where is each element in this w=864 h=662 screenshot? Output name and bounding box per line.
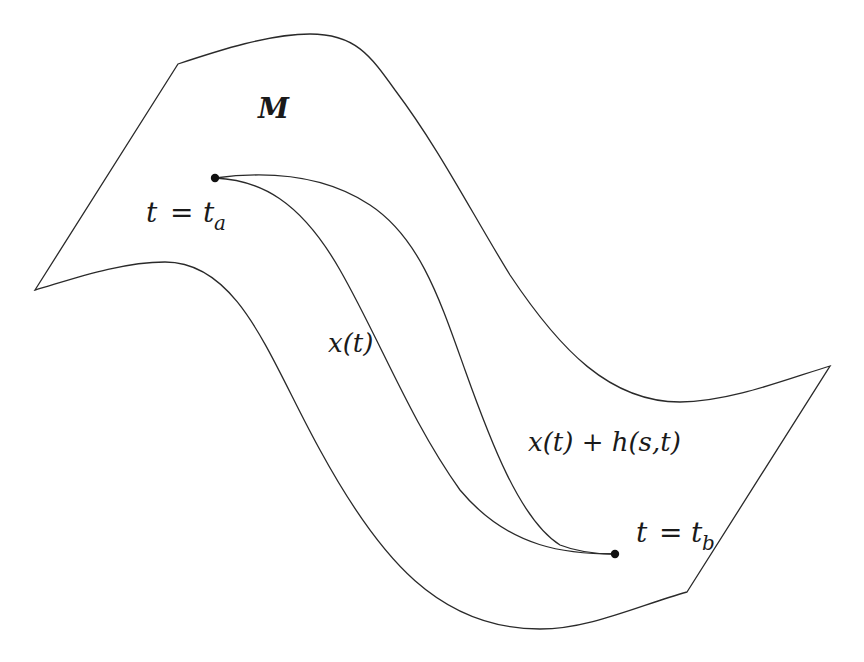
svg-text:b: b: [702, 531, 715, 555]
end-point-dot: [611, 550, 619, 558]
varied-path-label: x(t) + h(s,t): [528, 427, 681, 457]
svg-text:a: a: [214, 211, 226, 235]
start-point-dot: [211, 174, 219, 182]
manifold-label: M: [257, 92, 290, 125]
path-label: x(t): [328, 328, 373, 358]
path-varied: [215, 175, 615, 554]
start-point-label: t = t a: [146, 196, 226, 235]
svg-text:=: =: [170, 196, 193, 229]
end-point-label: t = t b: [636, 516, 715, 555]
path-x-of-t: [215, 178, 615, 554]
svg-text:t: t: [636, 516, 648, 549]
svg-text:=: =: [659, 516, 682, 549]
svg-text:t: t: [146, 196, 158, 229]
manifold-diagram: M t = t a x(t) x(t) + h(s,t) t = t b: [0, 0, 864, 662]
